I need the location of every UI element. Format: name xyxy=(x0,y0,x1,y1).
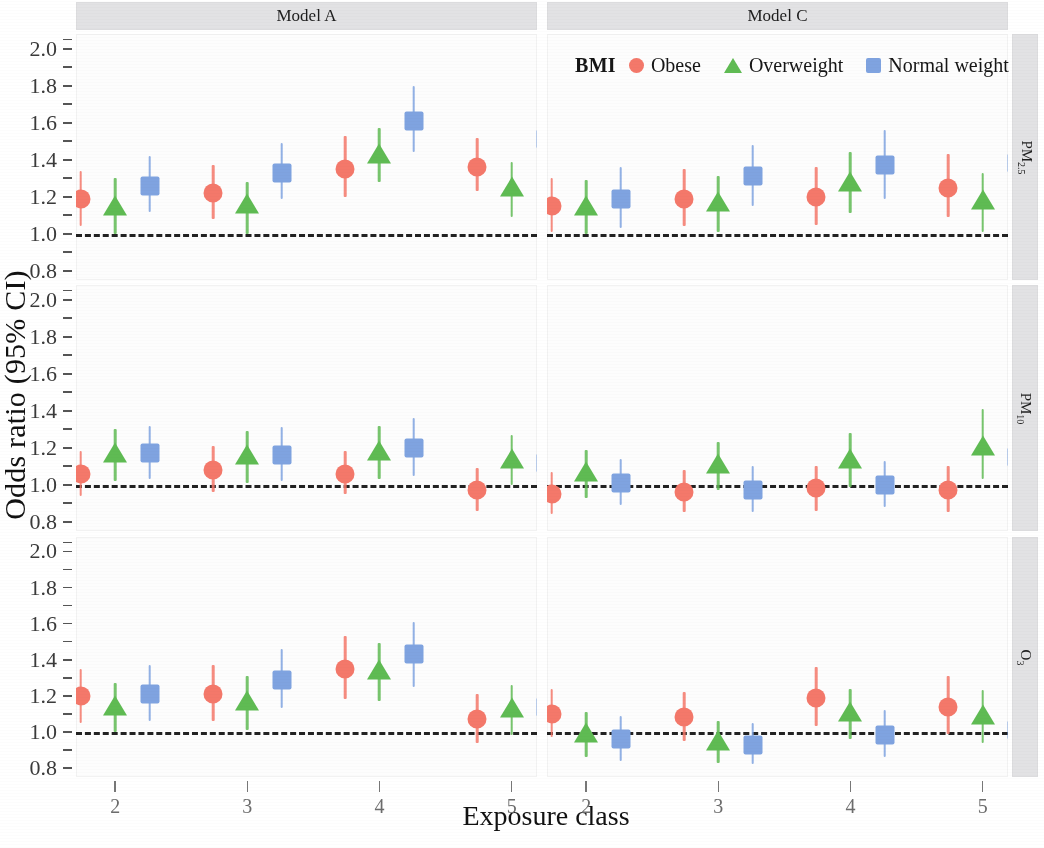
data-point-overweight xyxy=(500,34,524,280)
marker-square-icon xyxy=(743,167,762,186)
marker-circle-icon xyxy=(547,485,561,504)
x-tick-label: 5 xyxy=(497,781,527,818)
x-axis-title: Exposure class xyxy=(76,800,1016,844)
data-point-overweight xyxy=(500,285,524,531)
legend: BMIObeseOverweightNormal weight xyxy=(575,54,1023,77)
data-point-overweight xyxy=(574,537,598,777)
legend-swatch-triangle-icon xyxy=(724,58,742,73)
row-strip-pm10: PM10 xyxy=(1012,285,1038,531)
marker-circle-icon xyxy=(939,178,958,197)
marker-square-icon xyxy=(140,176,159,195)
panel-PM25-ModelA xyxy=(76,34,537,280)
marker-square-icon xyxy=(140,684,159,703)
odds-ratio-forest-figure: Odds ratio (95% CI) Exposure class Model… xyxy=(0,0,1044,848)
marker-triangle-icon xyxy=(574,461,598,481)
x-tick-label: 4 xyxy=(364,781,394,818)
marker-triangle-icon xyxy=(103,443,127,463)
data-point-obese xyxy=(804,537,828,777)
row-strip-label: O3 xyxy=(1016,649,1035,665)
data-point-overweight xyxy=(574,285,598,531)
data-point-overweight xyxy=(235,285,259,531)
marker-triangle-icon xyxy=(971,435,995,455)
row-strip-o3: O3 xyxy=(1012,537,1038,777)
data-point-overweight xyxy=(235,537,259,777)
data-point-normal-weight xyxy=(138,34,162,280)
legend-item-overweight[interactable]: Overweight xyxy=(724,54,843,77)
data-point-normal-weight xyxy=(270,34,294,280)
panel-O3-ModelA xyxy=(76,537,537,777)
data-point-overweight xyxy=(706,285,730,531)
data-point-overweight xyxy=(838,537,862,777)
legend-title: BMI xyxy=(575,54,616,77)
data-point-obese xyxy=(333,34,357,280)
data-point-normal-weight xyxy=(873,537,897,777)
marker-square-icon xyxy=(272,670,291,689)
marker-triangle-icon xyxy=(500,698,524,718)
marker-square-icon xyxy=(611,473,630,492)
marker-triangle-icon xyxy=(367,144,391,164)
marker-square-icon xyxy=(611,189,630,208)
marker-circle-icon xyxy=(336,659,355,678)
data-point-overweight xyxy=(367,285,391,531)
data-point-normal-weight xyxy=(741,537,765,777)
data-point-normal-weight xyxy=(609,285,633,531)
x-tick-label: 3 xyxy=(703,781,733,818)
marker-square-icon xyxy=(404,645,423,664)
data-point-obese xyxy=(936,537,960,777)
row-strip-label: PM2.5 xyxy=(1016,140,1035,174)
data-point-overweight xyxy=(500,537,524,777)
marker-triangle-icon xyxy=(971,705,995,725)
marker-triangle-icon xyxy=(574,195,598,215)
marker-triangle-icon xyxy=(706,454,730,474)
data-point-overweight xyxy=(838,285,862,531)
data-point-obese xyxy=(76,537,93,777)
data-point-obese xyxy=(547,34,564,280)
x-tick-label: 3 xyxy=(232,781,262,818)
x-tick-label: 2 xyxy=(571,781,601,818)
data-point-obese xyxy=(465,537,489,777)
legend-item-label: Obese xyxy=(651,54,701,77)
legend-item-normal-weight[interactable]: Normal weight xyxy=(866,54,1009,77)
marker-circle-icon xyxy=(674,189,693,208)
marker-circle-icon xyxy=(203,684,222,703)
data-point-overweight xyxy=(706,537,730,777)
legend-swatch-circle-icon xyxy=(629,58,644,73)
marker-circle-icon xyxy=(76,189,90,208)
data-point-normal-weight xyxy=(402,34,426,280)
data-point-obese xyxy=(333,537,357,777)
marker-square-icon xyxy=(875,726,894,745)
marker-circle-icon xyxy=(674,708,693,727)
marker-square-icon xyxy=(272,163,291,182)
marker-square-icon xyxy=(404,438,423,457)
data-point-overweight xyxy=(367,34,391,280)
marker-circle-icon xyxy=(468,481,487,500)
marker-triangle-icon xyxy=(367,660,391,680)
marker-square-icon xyxy=(537,697,538,716)
data-point-obese xyxy=(465,34,489,280)
marker-circle-icon xyxy=(807,688,826,707)
data-point-normal-weight xyxy=(1005,537,1008,777)
data-point-normal-weight xyxy=(534,34,537,280)
data-point-normal-weight xyxy=(138,285,162,531)
legend-item-label: Normal weight xyxy=(888,54,1009,77)
marker-circle-icon xyxy=(203,184,222,203)
marker-circle-icon xyxy=(336,160,355,179)
data-point-obese xyxy=(201,34,225,280)
data-point-overweight xyxy=(103,285,127,531)
data-point-normal-weight xyxy=(741,285,765,531)
marker-square-icon xyxy=(1008,448,1009,467)
marker-triangle-icon xyxy=(103,195,127,215)
data-point-obese xyxy=(547,537,564,777)
marker-square-icon xyxy=(611,730,630,749)
x-tick-label: 2 xyxy=(100,781,130,818)
data-point-normal-weight xyxy=(402,285,426,531)
legend-item-obese[interactable]: Obese xyxy=(629,54,701,77)
marker-circle-icon xyxy=(76,686,90,705)
marker-square-icon xyxy=(875,475,894,494)
data-point-obese xyxy=(672,285,696,531)
marker-triangle-icon xyxy=(500,177,524,197)
data-point-obese xyxy=(804,285,828,531)
marker-triangle-icon xyxy=(838,701,862,721)
data-point-normal-weight xyxy=(270,285,294,531)
data-point-overweight xyxy=(103,34,127,280)
